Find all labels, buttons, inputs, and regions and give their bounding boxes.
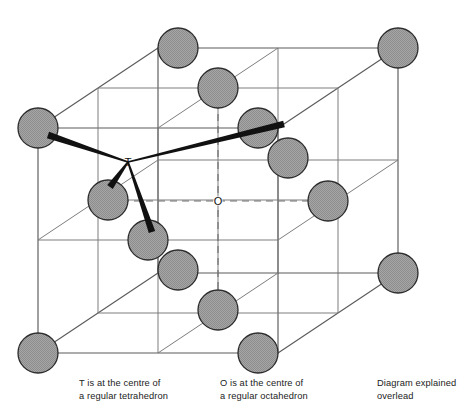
atom-face-top-centre	[198, 68, 238, 108]
caption-tetrahedral: T is at the centre of a regular tetrahed…	[79, 377, 168, 402]
label-octahedral-site: O	[214, 195, 223, 207]
atom-corner-back-top-right	[378, 28, 418, 68]
caption-octahedral: O is at the centre of a regular octahedr…	[220, 377, 308, 402]
atom-corner-back-top-left	[18, 108, 58, 148]
atom-face-right-centre	[308, 181, 348, 221]
atom-corner-bottom-mid	[238, 333, 278, 373]
label-tetrahedral-site: T	[124, 156, 131, 168]
atom-corner-front-bottom-left	[18, 333, 58, 373]
atom-corner-back-top-midz	[158, 28, 198, 68]
atom-face-bottom-centre	[198, 290, 238, 330]
atom-face-centre-upper-right	[268, 138, 308, 178]
atom-face-left-centre	[88, 180, 128, 220]
atom-corner-bottom-right	[378, 253, 418, 293]
fcc-unit-cell-figure: T O	[0, 0, 468, 412]
atom-face-lower-left	[158, 250, 198, 290]
caption-overleaf-note: Diagram explained overlead	[377, 377, 456, 402]
